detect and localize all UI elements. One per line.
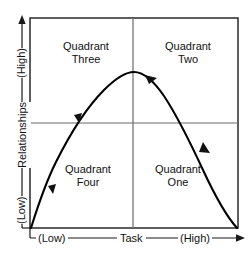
y-axis-high-label: (High) bbox=[13, 48, 29, 78]
quadrant-one-line2: One bbox=[140, 176, 216, 189]
quadrant-label-four: Quadrant Four bbox=[50, 163, 126, 189]
quadrant-two-line1: Quadrant bbox=[146, 40, 230, 53]
quadrant-label-one: Quadrant One bbox=[140, 163, 216, 189]
quadrant-two-line2: Two bbox=[146, 53, 230, 66]
x-axis-arrow-icon bbox=[236, 234, 245, 241]
x-axis-high-label: (High) bbox=[178, 232, 212, 244]
curve-arrow-right-limb-icon bbox=[199, 142, 210, 153]
y-axis-arrow-icon bbox=[18, 15, 25, 24]
quadrant-label-two: Quadrant Two bbox=[146, 40, 230, 66]
x-axis-low-label: (Low) bbox=[36, 232, 68, 244]
x-axis-name-label: Task bbox=[117, 232, 146, 244]
curve-arrow-apex-icon bbox=[145, 75, 157, 84]
quadrant-four-line1: Quadrant bbox=[50, 163, 126, 176]
y-axis-name-label: Relationships bbox=[13, 102, 31, 168]
quadrant-one-line1: Quadrant bbox=[140, 163, 216, 176]
quadrant-three-line2: Three bbox=[44, 53, 128, 66]
quadrant-three-line1: Quadrant bbox=[44, 40, 128, 53]
y-axis-low-label: (Low) bbox=[13, 196, 29, 224]
quadrant-diagram: Quadrant Three Quadrant Two Quadrant Fou… bbox=[0, 0, 249, 262]
quadrant-four-line2: Four bbox=[50, 176, 126, 189]
quadrant-label-three: Quadrant Three bbox=[44, 40, 128, 66]
